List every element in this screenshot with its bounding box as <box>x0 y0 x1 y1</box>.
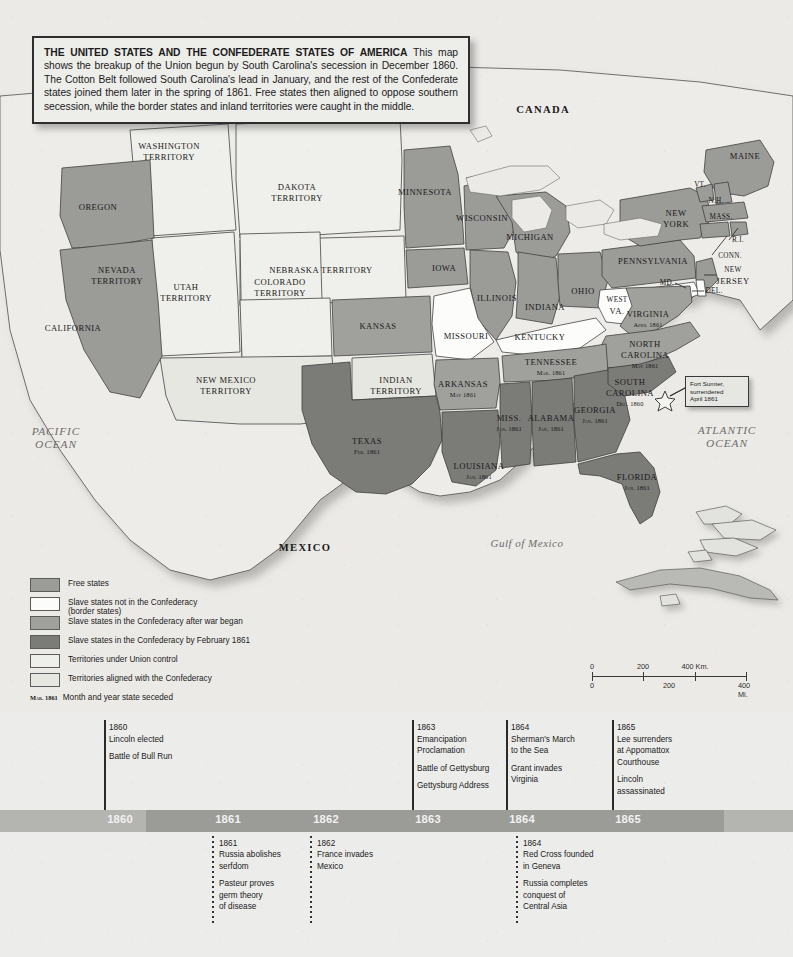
fort-sumter-callout: Fort Sumter, surrendered April 1861 <box>685 376 749 407</box>
legend-date-key: Mar. 1861Month and year state seceded <box>30 693 250 702</box>
timeline-tick <box>506 720 508 810</box>
event-line: Battle of Bull Run <box>109 751 172 763</box>
event-line: Sherman's March <box>511 735 575 744</box>
event-line: to the Sea <box>511 746 548 755</box>
scale-km-tick: 0 <box>590 662 594 671</box>
event-line: Grant invades <box>511 763 575 775</box>
legend-swatch <box>30 597 60 611</box>
timeline-world-event-1864: 1864Red Cross foundedin GenevaRussia com… <box>523 838 594 912</box>
event-line: Lee surrenders <box>617 735 672 744</box>
legend-row: Slave states not in the Confederacy(bord… <box>30 597 250 615</box>
timeline-event-1865: 1865Lee surrendersat AppomattoxCourthous… <box>617 722 672 798</box>
timeline-event-1860: 1860Lincoln electedBattle of Bull Run <box>109 722 172 763</box>
event-line: Proclamation <box>417 746 465 755</box>
timeline-dotted-tick <box>516 836 518 926</box>
callout-line-2: surrendered <box>690 388 744 396</box>
timeline-tick <box>612 720 614 810</box>
event-line: at Appomattox <box>617 746 669 755</box>
legend-date-text: Month and year state seceded <box>63 693 173 702</box>
event-line: Pasteur proves <box>219 878 281 889</box>
timeline-year-1865: 1865 <box>615 813 641 825</box>
scale-bar-rule <box>592 672 762 681</box>
event-line: France invades <box>317 850 373 859</box>
timeline-tick <box>412 720 414 810</box>
timeline-dotted-tick <box>310 836 312 926</box>
timeline-world-event-1862: 1862France invadesMexico <box>317 838 373 872</box>
legend-label: Slave states in the Confederacy by Febru… <box>68 635 250 645</box>
timeline: 1860186118621863186418651860Lincoln elec… <box>0 712 793 957</box>
event-line: Virginia <box>511 775 538 784</box>
event-line: in Geneva <box>523 862 560 871</box>
scale-mi-tick: 200 <box>663 681 675 690</box>
scale-mi-tick: 400 Mi. <box>738 681 754 699</box>
scale-bar-km-labels: 0200400 Km. <box>592 662 762 672</box>
scale-bar-mi-labels: 0200400 Mi. <box>592 681 762 691</box>
callout-line-1: Fort Sumter, <box>690 380 744 388</box>
scale-bar: 0200400 Km. 0200400 Mi. <box>592 662 762 691</box>
event-line: Lincoln elected <box>109 735 164 744</box>
event-line: Battle of Gettysburg <box>417 763 489 775</box>
timeline-dotted-tick <box>212 836 214 926</box>
timeline-year-1861: 1861 <box>215 813 241 825</box>
timeline-year-1864: 1864 <box>509 813 535 825</box>
timeline-tick <box>104 720 106 810</box>
scale-km-tick: 400 Km. <box>681 662 708 671</box>
legend-row: Territories aligned with the Confederacy <box>30 673 250 691</box>
event-line: Russia completes <box>523 878 594 889</box>
scale-km-tick: 200 <box>637 662 649 671</box>
map-page: THE UNITED STATES AND THE CONFEDERATE ST… <box>0 0 793 957</box>
timeline-event-1864: 1864Sherman's Marchto the SeaGrant invad… <box>511 722 575 786</box>
map-title-box: THE UNITED STATES AND THE CONFEDERATE ST… <box>32 36 470 124</box>
event-line: Lincoln <box>617 774 672 786</box>
event-line: Central Asia <box>523 902 567 911</box>
legend-swatch <box>30 673 60 687</box>
legend-label: Territories aligned with the Confederacy <box>68 673 212 683</box>
map-title-heading: THE UNITED STATES AND THE CONFEDERATE ST… <box>44 47 407 58</box>
timeline-event-1863: 1863EmancipationProclamationBattle of Ge… <box>417 722 489 792</box>
callout-line-3: April 1861 <box>690 395 744 403</box>
legend-swatch <box>30 654 60 668</box>
legend-label: Free states <box>68 578 109 588</box>
event-line: of disease <box>219 902 256 911</box>
event-line: Emancipation <box>417 735 467 744</box>
event-year: 1864 <box>511 722 575 734</box>
legend-row: Slave states in the Confederacy after wa… <box>30 616 250 634</box>
legend-row: Territories under Union control <box>30 654 250 672</box>
event-line: assassinated <box>617 787 665 796</box>
timeline-year-1863: 1863 <box>415 813 441 825</box>
territories-union <box>130 118 432 358</box>
event-line: Red Cross founded <box>523 850 594 859</box>
event-year: 1863 <box>417 722 489 734</box>
event-line: conquest of <box>523 891 565 900</box>
legend-swatch <box>30 578 60 592</box>
timeline-year-1860: 1860 <box>107 813 133 825</box>
legend-label: Slave states in the Confederacy after wa… <box>68 616 243 626</box>
event-line: Gettysburg Address <box>417 780 489 792</box>
event-year: 1864 <box>523 838 594 849</box>
event-year: 1862 <box>317 838 373 849</box>
legend-date-sample: Mar. 1861 <box>30 694 58 701</box>
event-line: serfdom <box>219 862 249 871</box>
legend-label: Territories under Union control <box>68 654 178 664</box>
event-year: 1861 <box>219 838 281 849</box>
legend-swatch <box>30 616 60 630</box>
timeline-year-1862: 1862 <box>313 813 339 825</box>
event-line: Mexico <box>317 862 343 871</box>
legend-label: Slave states not in the Confederacy(bord… <box>68 597 197 617</box>
event-line: Courthouse <box>617 758 659 767</box>
map-legend: Free statesSlave states not in the Confe… <box>30 578 250 702</box>
legend-swatch <box>30 635 60 649</box>
scale-mi-tick: 0 <box>590 681 594 690</box>
event-line: Russia abolishes <box>219 850 281 859</box>
event-line: germ theory <box>219 891 263 900</box>
timeline-world-event-1861: 1861Russia abolishesserfdomPasteur prove… <box>219 838 281 912</box>
legend-row: Slave states in the Confederacy by Febru… <box>30 635 250 653</box>
event-year: 1860 <box>109 722 172 734</box>
event-year: 1865 <box>617 722 672 734</box>
legend-row: Free states <box>30 578 250 596</box>
map-canvas: THE UNITED STATES AND THE CONFEDERATE ST… <box>0 0 793 712</box>
